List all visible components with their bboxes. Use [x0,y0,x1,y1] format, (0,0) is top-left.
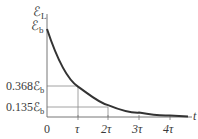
x-tick-label-2tau: 2τ [101,122,112,136]
x-tick-label-tau: τ [75,122,80,136]
y-tick-label-0368: 0.368ℰb [6,79,44,95]
x-tick-label-3tau: 3τ [131,122,143,136]
decay-curve [47,29,188,117]
chart-svg: ℰL ℰb 0.368ℰb 0.135ℰb 0 τ 2τ 3τ 4τ t [0,0,198,139]
inductor-emf-decay-chart: ℰL ℰb 0.368ℰb 0.135ℰb 0 τ 2τ 3τ 4τ t [0,0,198,139]
x-axis-label: t [193,109,197,123]
y-tick-label-0135: 0.135ℰb [6,100,44,116]
x-tick-label-4tau: 4τ [163,122,174,136]
x-tick-label-0: 0 [44,122,50,136]
